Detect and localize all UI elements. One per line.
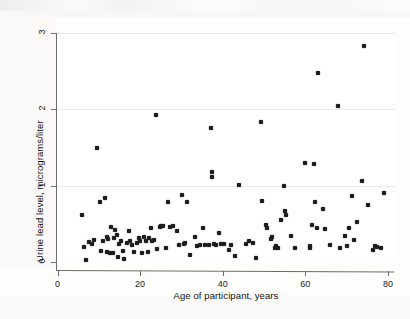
data-point bbox=[116, 255, 120, 259]
data-point bbox=[155, 247, 159, 251]
data-point bbox=[282, 184, 286, 188]
x-tick-0 bbox=[58, 271, 59, 276]
y-tick-3 bbox=[51, 33, 56, 34]
data-point bbox=[175, 229, 179, 233]
x-tick-label-80: 80 bbox=[374, 279, 402, 289]
data-point bbox=[260, 199, 264, 203]
plot-canvas bbox=[57, 33, 395, 262]
y-tick-label-3: 3 bbox=[37, 25, 47, 39]
data-point bbox=[362, 44, 366, 48]
data-point bbox=[119, 239, 123, 243]
data-point bbox=[152, 238, 156, 242]
data-point bbox=[350, 194, 354, 198]
data-point bbox=[259, 120, 263, 124]
data-point bbox=[251, 241, 255, 245]
data-point bbox=[113, 228, 117, 232]
gridline-y-1 bbox=[57, 186, 395, 187]
data-point bbox=[382, 191, 386, 195]
y-tick-1 bbox=[51, 186, 56, 187]
data-point bbox=[193, 235, 197, 239]
data-point bbox=[210, 170, 214, 174]
data-point bbox=[95, 146, 99, 150]
data-point bbox=[303, 161, 307, 165]
scatter-plot-figure: 0123020406080 Age of participant, years … bbox=[0, 0, 410, 319]
data-point bbox=[293, 246, 297, 250]
data-point bbox=[321, 207, 325, 211]
data-point bbox=[171, 224, 175, 228]
data-point bbox=[360, 179, 364, 183]
data-point bbox=[121, 249, 125, 253]
y-tick-2 bbox=[51, 109, 56, 110]
data-point bbox=[233, 254, 237, 258]
data-point bbox=[122, 257, 126, 261]
x-tick-label-20: 20 bbox=[126, 279, 154, 289]
scan-artifact-band-secondary bbox=[0, 11, 410, 17]
x-tick-40 bbox=[223, 271, 224, 276]
data-point bbox=[283, 209, 287, 213]
data-point bbox=[366, 203, 370, 207]
data-point bbox=[312, 162, 316, 166]
data-point bbox=[222, 242, 226, 246]
gridline-y-3 bbox=[57, 33, 395, 34]
data-point bbox=[130, 243, 134, 247]
data-point bbox=[343, 234, 347, 238]
data-point bbox=[347, 226, 351, 230]
data-point bbox=[180, 193, 184, 197]
data-point bbox=[315, 226, 319, 230]
x-tick-20 bbox=[140, 271, 141, 276]
data-point bbox=[375, 245, 379, 249]
data-point bbox=[112, 236, 116, 240]
data-point bbox=[105, 235, 109, 239]
y-axis-title: Urine lead level, micrograms/liter bbox=[34, 120, 45, 262]
x-tick-60 bbox=[305, 271, 306, 276]
data-point bbox=[338, 246, 342, 250]
data-point bbox=[164, 246, 168, 250]
data-point bbox=[345, 244, 349, 248]
data-point bbox=[80, 213, 84, 217]
data-point bbox=[217, 231, 221, 235]
data-point bbox=[284, 213, 288, 217]
data-point bbox=[115, 233, 119, 237]
data-point bbox=[308, 246, 312, 250]
data-point bbox=[310, 223, 314, 227]
x-tick-80 bbox=[388, 271, 389, 276]
y-tick-label-2: 2 bbox=[37, 101, 47, 115]
data-point bbox=[111, 251, 115, 255]
data-point bbox=[101, 239, 105, 243]
data-point bbox=[140, 251, 144, 255]
x-tick-label-0: 0 bbox=[44, 279, 72, 289]
data-point bbox=[195, 244, 199, 248]
data-point bbox=[84, 258, 88, 262]
data-point bbox=[158, 225, 162, 229]
data-point bbox=[289, 234, 293, 238]
data-point bbox=[103, 196, 107, 200]
gridline-y-2 bbox=[57, 109, 395, 110]
data-point bbox=[352, 238, 356, 242]
scan-artifact-band bbox=[0, 0, 410, 11]
data-point bbox=[92, 238, 96, 242]
x-axis-line bbox=[56, 270, 394, 272]
data-point bbox=[379, 246, 383, 250]
data-point bbox=[214, 243, 218, 247]
data-point bbox=[279, 218, 283, 222]
data-point bbox=[227, 248, 231, 252]
data-point bbox=[99, 249, 103, 253]
data-point bbox=[146, 250, 150, 254]
data-point bbox=[229, 243, 233, 247]
data-point bbox=[270, 235, 274, 239]
x-tick-label-40: 40 bbox=[209, 279, 237, 289]
data-point bbox=[132, 250, 136, 254]
y-tick-0 bbox=[51, 262, 56, 263]
data-point bbox=[154, 113, 158, 117]
scan-smudge-left bbox=[0, 17, 56, 267]
data-point bbox=[183, 241, 187, 245]
data-point bbox=[355, 220, 359, 224]
data-point bbox=[209, 126, 213, 130]
data-point bbox=[323, 227, 327, 231]
data-point bbox=[177, 243, 181, 247]
x-axis-title: Age of participant, years bbox=[57, 290, 395, 301]
data-point bbox=[149, 226, 153, 230]
data-point bbox=[188, 253, 192, 257]
data-point bbox=[201, 226, 205, 230]
data-point bbox=[82, 245, 86, 249]
